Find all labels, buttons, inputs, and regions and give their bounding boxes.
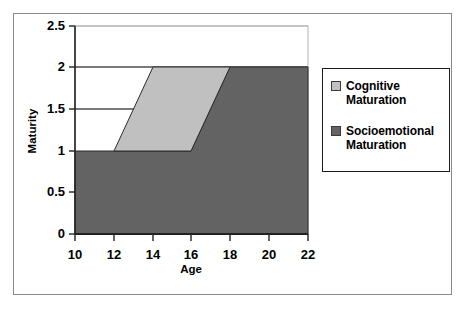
legend-swatch-socioemotional-icon	[331, 126, 341, 136]
y-tick-label-0.5: 0.5	[24, 185, 65, 198]
chart-root: 2.5 2 1.5 1 0.5 0 10 12 14 16 18 20 22 M…	[0, 0, 468, 312]
y-tick-label-2: 2	[24, 60, 65, 73]
y-tick-label-2.5: 2.5	[24, 19, 65, 32]
x-tick-label-16: 16	[171, 248, 211, 261]
x-tick-marks	[75, 234, 308, 241]
chart-legend: CognitiveMaturation SocioemotionalMatura…	[322, 68, 450, 172]
y-tick-label-0: 0	[24, 227, 65, 240]
x-tick-label-14: 14	[133, 248, 173, 261]
legend-item-socioemotional[interactable]: SocioemotionalMaturation	[331, 124, 434, 152]
x-tick-label-22: 22	[288, 248, 328, 261]
x-axis-title: Age	[171, 263, 211, 275]
x-tick-label-20: 20	[249, 248, 289, 261]
legend-item-cognitive[interactable]: CognitiveMaturation	[331, 79, 406, 107]
x-tick-label-10: 10	[55, 248, 95, 261]
y-tick-marks	[69, 26, 75, 234]
legend-swatch-cognitive-icon	[331, 81, 341, 91]
legend-label-cognitive: CognitiveMaturation	[346, 79, 406, 107]
legend-label-socioemotional: SocioemotionalMaturation	[346, 124, 434, 152]
y-axis-title: Maturity	[26, 101, 38, 161]
x-tick-label-18: 18	[210, 248, 250, 261]
x-tick-label-12: 12	[94, 248, 134, 261]
